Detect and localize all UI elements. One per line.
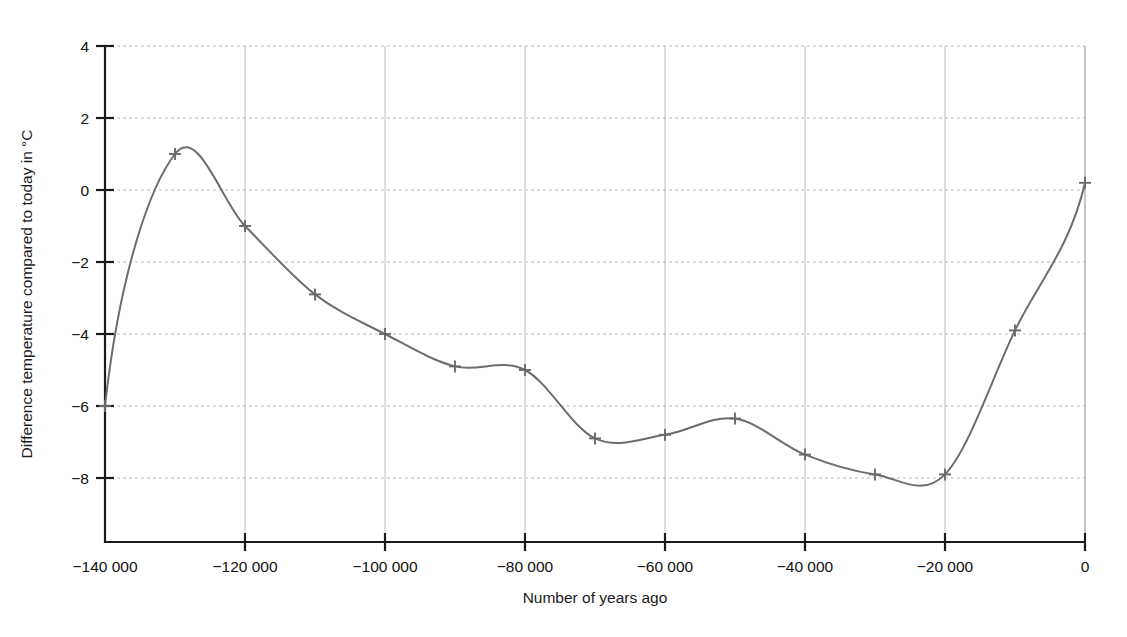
x-tick-label: 0 <box>1081 558 1090 575</box>
temperature-line-chart: 420−2−4−6−8 −140 000−120 000−100 000−80 … <box>0 0 1127 637</box>
x-tick-label: −20 000 <box>917 558 974 575</box>
y-tick-label: −8 <box>71 470 89 487</box>
plot-background <box>105 46 1085 542</box>
y-axis-title: Difference temperature compared to today… <box>18 130 35 459</box>
x-tick-label: −80 000 <box>497 558 554 575</box>
y-tick-label: 2 <box>80 110 89 127</box>
x-tick-label: −120 000 <box>212 558 277 575</box>
y-axis-tick-labels: 420−2−4−6−8 <box>71 38 89 487</box>
y-tick-label: 0 <box>80 182 89 199</box>
x-tick-label: −140 000 <box>72 558 137 575</box>
x-tick-label: −40 000 <box>777 558 834 575</box>
y-tick-label: −6 <box>71 398 89 415</box>
x-axis-tick-labels: −140 000−120 000−100 000−80 000−60 000−4… <box>72 558 1089 575</box>
chart-figure: 420−2−4−6−8 −140 000−120 000−100 000−80 … <box>0 0 1127 637</box>
y-tick-label: −2 <box>71 254 89 271</box>
x-tick-label: −100 000 <box>352 558 417 575</box>
x-axis-title: Number of years ago <box>523 589 668 606</box>
y-tick-label: −4 <box>71 326 89 343</box>
y-tick-label: 4 <box>80 38 89 55</box>
x-tick-label: −60 000 <box>637 558 694 575</box>
